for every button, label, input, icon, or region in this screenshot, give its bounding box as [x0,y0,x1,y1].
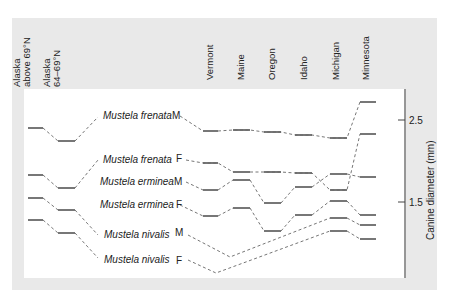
label-frenata-f-species: Mustela frenata [103,154,172,165]
label-nivalis-f-sex: F [176,255,182,266]
label-erminea-m-sex: M [174,176,182,187]
y-axis-title: Canine diameter (mm) [425,141,436,240]
chart-canvas: Mustela frenata M Mustela frenata F Must… [0,0,457,305]
label-erminea-f-sex: F [176,199,182,210]
y-tick-label-2-5: 2.5 [409,115,423,126]
label-nivalis-m-sex: M [175,227,183,238]
label-frenata-m-sex: M [172,110,180,121]
y-tick-label-1-5: 1.5 [409,197,423,208]
connector-lines [43,102,360,273]
label-erminea-m-species: Mustela erminea [100,176,174,187]
label-erminea-f-species: Mustela erminea [100,199,174,210]
mean-dashes [28,102,376,239]
label-nivalis-m-species: Mustela nivalis [104,229,170,240]
label-frenata-m-species: Mustela frenata [103,110,172,121]
label-nivalis-f-species: Mustela nivalis [104,254,170,265]
label-frenata-f-sex: F [176,153,182,164]
